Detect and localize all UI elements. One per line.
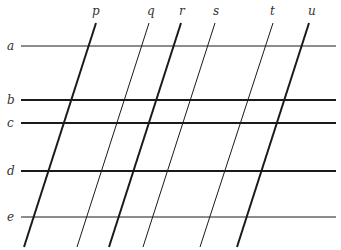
line-s bbox=[143, 23, 215, 247]
label-d: d bbox=[7, 164, 15, 178]
label-q: q bbox=[147, 4, 155, 18]
parallel-lines-diagram: a b c d e p q r s t u bbox=[0, 0, 341, 250]
label-t: t bbox=[270, 4, 275, 18]
label-r: r bbox=[179, 4, 186, 18]
line-r bbox=[109, 23, 181, 247]
label-u: u bbox=[308, 4, 316, 18]
label-e: e bbox=[7, 210, 14, 224]
label-b: b bbox=[7, 93, 15, 107]
line-p bbox=[24, 23, 96, 247]
label-s: s bbox=[213, 4, 219, 18]
label-a: a bbox=[7, 39, 14, 53]
line-u bbox=[237, 23, 309, 247]
line-q bbox=[77, 23, 149, 247]
line-t bbox=[200, 23, 273, 247]
label-c: c bbox=[7, 116, 14, 130]
label-p: p bbox=[92, 4, 100, 18]
